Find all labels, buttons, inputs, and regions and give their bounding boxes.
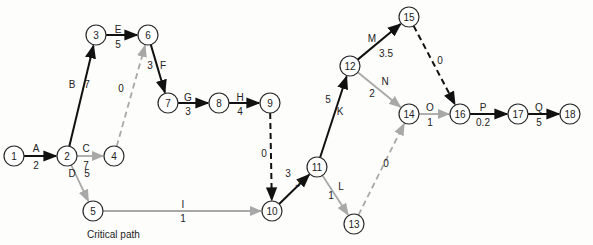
activity-duration-label: 4 [237,106,243,117]
activity-name-label: Q [535,102,543,113]
activity-name-label: F [160,60,166,71]
activity-duration-label: 0 [383,158,389,169]
node-number: 16 [454,109,466,120]
activity-name-label: K [337,106,344,117]
activity-name-label: H [236,92,243,103]
event-node-9: 9 [260,93,280,113]
activity-name-label: L [338,181,344,192]
node-number: 3 [93,30,99,41]
activity-name-label: A [33,143,40,154]
event-nodes: 123456789101112131415161718 [4,7,580,234]
event-node-6: 6 [138,25,158,45]
activity-duration-label: 7 [84,79,90,90]
activity-arrow-4-6 [117,46,145,147]
activity-name-label: I [182,199,185,210]
activity-duration-label: 2 [369,88,375,99]
activity-duration-label: 3 [147,60,153,71]
event-node-18: 18 [560,104,580,124]
event-node-11: 11 [307,157,327,177]
activity-arrow-11-12 [320,76,346,157]
node-number: 15 [403,12,415,23]
activity-arrow-10-11 [279,175,309,204]
event-node-12: 12 [340,56,360,76]
node-number: 4 [111,151,117,162]
activity-arrow-11-13 [322,175,348,214]
node-number: 9 [267,98,273,109]
event-node-8: 8 [209,93,229,113]
event-node-15: 15 [399,7,419,27]
event-node-3: 3 [86,25,106,45]
event-node-2: 2 [57,146,77,166]
node-number: 6 [145,30,151,41]
node-number: 10 [266,206,278,217]
activity-name-label: C [82,143,89,154]
activity-name-label: M [368,33,376,44]
node-number: 5 [90,206,96,217]
activity-name-label: B [69,79,76,90]
node-number: 12 [344,61,356,72]
node-number: 18 [564,109,576,120]
event-node-14: 14 [399,104,419,124]
event-node-7: 7 [158,93,178,113]
activity-duration-label: 0.2 [476,117,490,128]
activity-duration-label: 1 [427,117,433,128]
critical-path-caption: Critical path [87,229,140,240]
event-node-1: 1 [4,146,24,166]
activity-name-label: D [68,168,75,179]
activity-arrow-9-10 [270,113,272,200]
activity-duration-label: 0 [118,83,124,94]
activity-duration-label: 5 [115,39,121,50]
activity-duration-label: 3 [185,106,191,117]
activity-name-label: J [296,178,301,189]
event-node-13: 13 [344,214,364,234]
activity-duration-label: 5 [536,117,542,128]
node-number: 7 [165,98,171,109]
event-node-17: 17 [508,104,528,124]
activity-duration-label: 5 [84,168,90,179]
activity-duration-label: 1 [180,213,186,224]
activity-name-label: O [426,102,434,113]
event-node-5: 5 [83,201,103,221]
activity-arrow-15-16 [414,26,455,104]
node-number: 2 [64,151,70,162]
activity-duration-label: 3.5 [379,48,393,59]
event-node-16: 16 [450,104,470,124]
activity-duration-label: 1 [328,190,334,201]
network-diagram: A2B7C7D5E50F3G3H40I1J3K5L1M3.5N200O1P0.2… [0,0,593,245]
node-number: 14 [403,109,415,120]
activity-name-label: P [480,102,487,113]
node-number: 8 [216,98,222,109]
node-number: 11 [312,162,323,173]
activity-arrow-2-3 [69,46,93,147]
activity-arrow-12-14 [358,72,401,107]
node-number: 13 [348,219,360,230]
activity-duration-label: 0 [261,148,267,159]
node-number: 1 [11,151,17,162]
activity-duration-label: 0 [437,55,443,66]
event-node-10: 10 [262,201,282,221]
activity-name-label: N [381,76,388,87]
event-node-4: 4 [104,146,124,166]
activity-duration-label: 3 [285,168,291,179]
activity-arrow-13-14 [358,124,404,215]
activity-name-label: G [184,92,192,103]
activity-duration-label: 5 [325,94,331,105]
activity-duration-label: 2 [33,160,39,171]
activity-name-label: E [115,24,122,35]
activity-labels: A2B7C7D5E50F3G3H40I1J3K5L1M3.5N200O1P0.2… [33,24,543,224]
node-number: 17 [512,109,524,120]
